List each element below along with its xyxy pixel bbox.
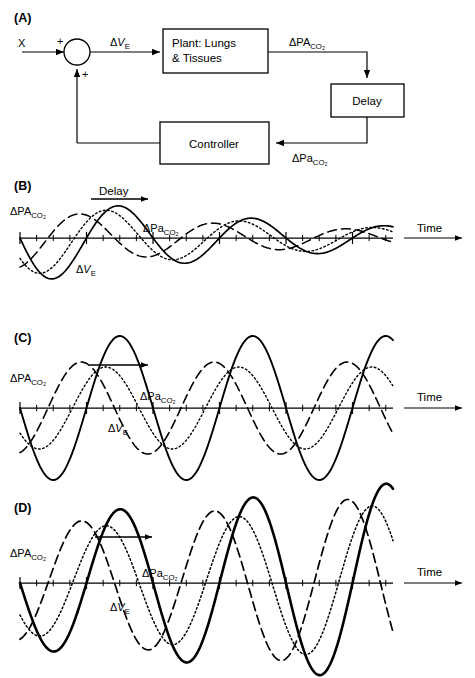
pa-sub: CO₂ xyxy=(161,396,176,405)
summing-junction xyxy=(64,39,90,65)
svg-text:ΔPACO₂: ΔPACO₂ xyxy=(10,547,46,562)
panel-b-label: (B) xyxy=(14,179,31,193)
signal-label-paco2-art-a: ΔPaCO₂ xyxy=(292,152,328,167)
panel-d-label-arterial: ΔPaCO₂ xyxy=(142,567,178,582)
panel-b-label-ventilation: ΔVE xyxy=(76,263,96,278)
svg-text:ΔPaCO₂: ΔPaCO₂ xyxy=(140,390,176,405)
panel-c-plot xyxy=(20,336,393,480)
panel-d-label-alveolar: ΔPACO₂ xyxy=(10,547,46,562)
ve-sub: E xyxy=(125,42,130,51)
panel-b-label-arterial: ΔPaCO₂ xyxy=(143,222,179,237)
pa-main: Pa xyxy=(149,567,163,579)
svg-text:ΔPaCO₂: ΔPaCO₂ xyxy=(292,152,328,167)
block-controller-label: Controller xyxy=(189,138,239,150)
svg-text:ΔVE: ΔVE xyxy=(76,263,96,278)
line-plant-to-delay xyxy=(268,52,367,78)
svg-text:ΔPaCO₂: ΔPaCO₂ xyxy=(143,222,179,237)
waveform-layer xyxy=(20,206,393,675)
pa-main: PA xyxy=(17,547,32,559)
pa-sub: CO₂ xyxy=(163,573,178,582)
ve-sub: E xyxy=(91,269,96,278)
ve-sub: E xyxy=(125,607,130,616)
svg-text:ΔPACO₂: ΔPACO₂ xyxy=(10,205,46,220)
figure-root: (A) X + + Plant: Lungs & Tissues Delay C… xyxy=(0,0,475,678)
block-plant-label-line2: & Tissues xyxy=(172,52,222,64)
pa-main: Pa xyxy=(299,152,313,164)
svg-text:ΔVE: ΔVE xyxy=(110,36,130,51)
panel-c-label-ventilation: ΔVE xyxy=(108,422,128,437)
svg-text:ΔPACO₂: ΔPACO₂ xyxy=(10,372,46,387)
panel-b-label-alveolar: ΔPACO₂ xyxy=(10,205,46,220)
panel-c-label: (C) xyxy=(14,331,31,345)
time-label-d: Time xyxy=(417,566,442,578)
pa-sub: CO₂ xyxy=(313,158,328,167)
pa-main: PA xyxy=(17,372,32,384)
pa-sub: CO₂ xyxy=(31,553,46,562)
svg-text:ΔVE: ΔVE xyxy=(108,422,128,437)
pa-main: PA xyxy=(17,205,32,217)
svg-text:ΔPACO₂: ΔPACO₂ xyxy=(289,36,325,51)
pa-sub: CO₂ xyxy=(31,211,46,220)
block-plant-label-line1: Plant: Lungs xyxy=(172,37,236,49)
plus-sign-top: + xyxy=(57,35,63,47)
block-delay-label: Delay xyxy=(352,95,382,107)
ve-sub: E xyxy=(123,428,128,437)
panel-a-label: (A) xyxy=(14,11,31,25)
signal-label-paco2-alv-a: ΔPACO₂ xyxy=(289,36,325,51)
block-plant xyxy=(163,29,268,73)
line-delay-to-controller xyxy=(276,117,367,143)
pa-main: Pa xyxy=(147,390,161,402)
pa-sub: CO₂ xyxy=(164,228,179,237)
svg-text:ΔVE: ΔVE xyxy=(110,601,130,616)
delay-caption-b: Delay xyxy=(99,185,129,197)
pa-sub: CO₂ xyxy=(31,378,46,387)
pa-main: PA xyxy=(296,36,311,48)
panel-d-label-ventilation: ΔVE xyxy=(110,601,130,616)
time-label-b: Time xyxy=(417,222,442,234)
figure-canvas: (A) X + + Plant: Lungs & Tissues Delay C… xyxy=(0,0,475,678)
input-label-x: X xyxy=(18,37,26,49)
panel-c-label-alveolar: ΔPACO₂ xyxy=(10,372,46,387)
time-label-c: Time xyxy=(417,391,442,403)
panel-d-plot xyxy=(20,484,393,675)
pa-sub: CO₂ xyxy=(310,42,325,51)
plus-sign-bottom: + xyxy=(82,68,88,80)
signal-label-ve-a: ΔVE xyxy=(110,36,130,51)
pa-main: Pa xyxy=(150,222,164,234)
svg-text:ΔPaCO₂: ΔPaCO₂ xyxy=(142,567,178,582)
panel-d-label: (D) xyxy=(14,501,31,515)
panel-c-label-arterial: ΔPaCO₂ xyxy=(140,390,176,405)
